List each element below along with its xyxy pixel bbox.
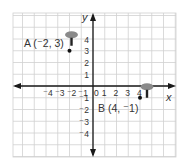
arrow-left-icon — [13, 83, 21, 89]
x-tick-label: ⁻3 — [55, 88, 65, 98]
arrow-up-icon — [90, 13, 96, 21]
y-tick-label: ⁻3 — [79, 117, 89, 127]
y-tick-label: ⁻2 — [79, 105, 89, 115]
pushpin-head-icon — [65, 31, 78, 38]
y-tick-label: ⁻1 — [79, 93, 89, 103]
point-b-label: B (4, ⁻1) — [98, 102, 138, 114]
pushpin-shaft-icon — [70, 38, 72, 46]
y-tick-label: ⁻4 — [79, 129, 89, 139]
pushpin-shaft-icon — [146, 90, 148, 98]
arrow-down-icon — [90, 149, 96, 157]
x-axis-label: x — [165, 91, 172, 103]
y-tick-label: 1 — [84, 70, 89, 80]
x-tick-label: ⁻2 — [67, 88, 77, 98]
point-a-label: A (⁻2, 3) — [24, 37, 64, 49]
y-tick-label: 3 — [84, 46, 89, 56]
x-tick-label: ⁻4 — [43, 88, 53, 98]
coordinate-plane: ⁻4⁻3⁻2⁻1012344321⁻1⁻2⁻3⁻4 x y A (⁻2, 3) … — [0, 0, 187, 162]
point-a — [68, 49, 72, 53]
arrow-right-icon — [168, 83, 176, 89]
x-tick-label: 2 — [114, 88, 119, 98]
y-tick-label: 2 — [84, 58, 89, 68]
pushpin-head-icon — [141, 83, 154, 90]
y-tick-label: 4 — [84, 35, 89, 45]
x-tick-label: 3 — [125, 88, 130, 98]
x-tick-label: 0 — [94, 88, 99, 98]
x-tick-label: 1 — [102, 88, 107, 98]
point-b — [138, 96, 142, 100]
